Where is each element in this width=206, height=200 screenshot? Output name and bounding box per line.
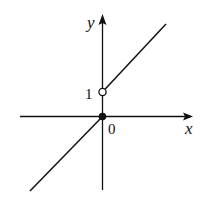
right-branch-line — [105, 24, 166, 89]
left-branch-line — [30, 117, 103, 192]
graph-figure: y x 1 0 — [0, 0, 206, 200]
origin-label: 0 — [108, 121, 116, 137]
tick-label-one: 1 — [85, 86, 93, 102]
y-axis-label: y — [85, 13, 95, 32]
filled-endpoint-marker — [99, 113, 107, 121]
x-axis-label: x — [184, 119, 193, 138]
plot-canvas: y x 1 0 — [0, 0, 206, 200]
open-endpoint-marker — [99, 88, 106, 95]
